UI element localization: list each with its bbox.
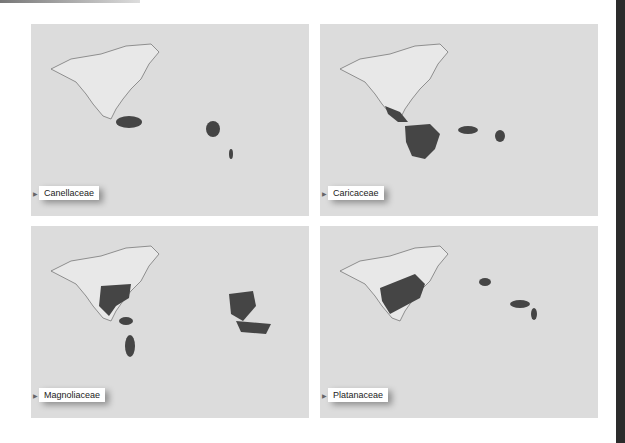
arrow-icon: ▶ (33, 392, 38, 399)
page-edge-shading (0, 0, 140, 3)
arrow-icon: ▶ (322, 190, 327, 197)
family-label: Caricaceae (328, 186, 384, 200)
family-label: Canellaceae (39, 186, 99, 200)
family-label: Platanaceae (328, 388, 388, 402)
map-panel-caricaceae: ▶ Caricaceae (320, 24, 598, 216)
range-area (116, 116, 233, 159)
range-area (99, 284, 271, 357)
range-area (385, 106, 505, 159)
arrow-icon: ▶ (322, 392, 327, 399)
page-binding-strip (616, 0, 625, 443)
map-panel-platanaceae: ▶ Platanaceae (320, 226, 598, 418)
family-label: Magnoliaceae (39, 388, 105, 402)
map-panel-magnoliaceae: ▶ Magnoliaceae (31, 226, 309, 418)
map-panel-canellaceae: ▶ Canellaceae (31, 24, 309, 216)
arrow-icon: ▶ (33, 190, 38, 197)
